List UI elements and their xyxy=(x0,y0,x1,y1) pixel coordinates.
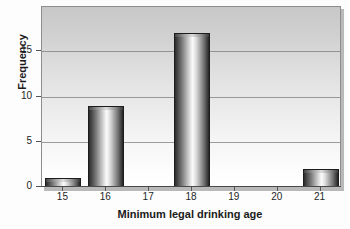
bar-21 xyxy=(303,169,339,187)
bar-18 xyxy=(174,33,210,187)
y-tick-label: 0 xyxy=(6,180,32,191)
x-tick-label: 16 xyxy=(90,191,120,202)
bar-16 xyxy=(88,106,124,187)
plot-area xyxy=(41,6,341,187)
y-tick xyxy=(36,50,41,51)
bar-chart-figure: Frequency 15161718192021 051015 Minimum … xyxy=(0,0,350,229)
y-tick-label: 5 xyxy=(6,135,32,146)
x-tick-label: 19 xyxy=(219,191,249,202)
x-tick-label: 18 xyxy=(176,191,206,202)
x-tick-label: 21 xyxy=(305,191,335,202)
x-tick-label: 15 xyxy=(47,191,77,202)
x-tick-label: 20 xyxy=(262,191,292,202)
y-tick xyxy=(36,186,41,187)
x-axis-title: Minimum legal drinking age xyxy=(40,208,340,220)
y-axis-title: Frequency xyxy=(16,0,28,132)
y-tick xyxy=(36,141,41,142)
y-tick-label: 15 xyxy=(6,44,32,55)
x-tick-label: 17 xyxy=(133,191,163,202)
y-tick xyxy=(36,96,41,97)
y-tick-label: 10 xyxy=(6,90,32,101)
